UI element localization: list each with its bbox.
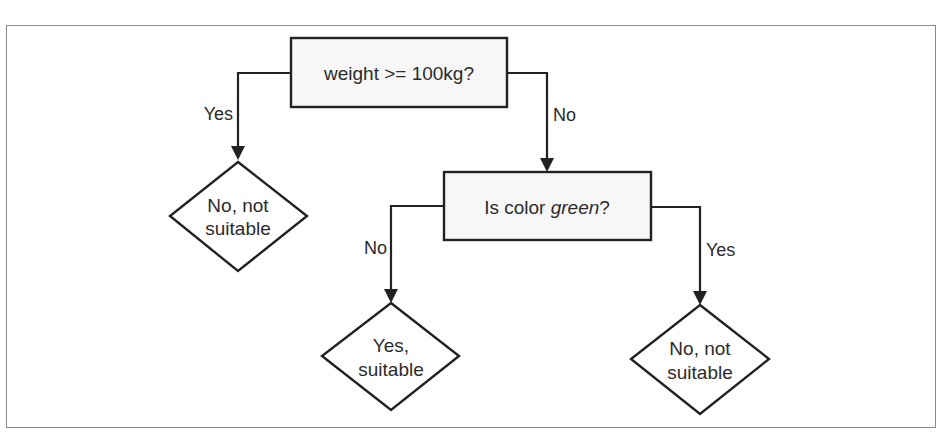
node-label-line2: suitable <box>205 218 271 239</box>
arrow-down-icon <box>693 291 707 305</box>
edge-root-to-leaf-heavy: Yes <box>204 73 291 160</box>
node-label-line2: suitable <box>358 359 424 380</box>
node-leaf-not-suitable-green: No, not suitable <box>631 305 769 414</box>
edge-label-no: No <box>553 105 576 125</box>
node-label: weight >= 100kg? <box>323 63 474 84</box>
arrow-down-icon <box>540 158 554 172</box>
node-label-line1: No, not <box>669 338 731 359</box>
edge-label-yes: Yes <box>706 240 735 260</box>
arrow-down-icon <box>384 289 398 303</box>
edge-label-no: No <box>364 238 387 258</box>
edge-label-yes: Yes <box>204 104 233 124</box>
node-color-check: Is color green? <box>444 172 651 240</box>
label-emphasis: green <box>551 197 600 218</box>
label-suffix: ? <box>599 197 610 218</box>
edge-color-check-to-leaf-not-green: No <box>364 206 444 303</box>
edge-color-check-to-leaf-green: Yes <box>651 207 735 305</box>
node-label-line1: No, not <box>207 195 269 216</box>
arrow-down-icon <box>231 146 245 160</box>
edge-root-to-color-check: No <box>507 73 576 172</box>
node-label: Is color green? <box>484 197 610 218</box>
node-label-line2: suitable <box>667 362 733 383</box>
node-leaf-suitable: Yes, suitable <box>322 303 459 410</box>
node-weight-check: weight >= 100kg? <box>291 38 507 107</box>
node-leaf-not-suitable-heavy: No, not suitable <box>170 162 307 271</box>
node-label-line1: Yes, <box>373 335 409 356</box>
decision-tree-diagram: Yes No No Yes weight >= 100kg? Is color … <box>0 0 943 436</box>
label-prefix: Is color <box>484 197 551 218</box>
